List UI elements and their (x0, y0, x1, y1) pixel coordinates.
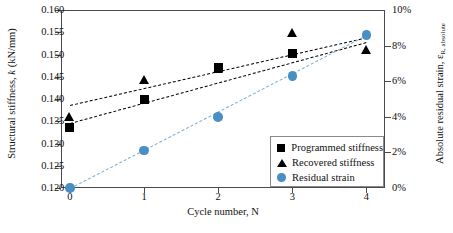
y-axis-left-tick-label: 0.140 (18, 94, 64, 104)
legend-label: Residual strain (288, 172, 355, 183)
data-point-triangle (139, 75, 149, 84)
y-axis-left-tick-label: 0.155 (18, 27, 64, 37)
legend-item-programmed-stiffness: Programmed stiffness (275, 140, 383, 155)
y-axis-right-tick (385, 152, 391, 153)
y-axis-left-tick-label: 0.145 (18, 72, 64, 82)
y-axis-left-tick-label: 0.160 (18, 5, 64, 15)
x-axis-tick-label: 4 (356, 191, 376, 203)
legend-item-residual-strain: Residual strain (275, 170, 383, 185)
y-axis-left-tick-label: 0.125 (18, 161, 64, 171)
y-axis-right-tick-label: 0% (392, 183, 422, 193)
data-point-circle (213, 112, 223, 122)
data-point-triangle (361, 45, 371, 54)
y-axis-right-tick-label: 8% (392, 41, 422, 51)
circle-marker-icon (275, 173, 288, 182)
x-axis-tick-label: 0 (60, 191, 80, 203)
data-point-square (288, 49, 297, 58)
y-axis-left-tick-label: 0.130 (18, 139, 64, 149)
y-axis-right-tick-label: 10% (392, 5, 422, 15)
y-axis-right-tick-label: 6% (392, 76, 422, 86)
data-point-circle (288, 71, 298, 81)
legend-item-recovered-stiffness: Recovered stiffness (275, 155, 383, 170)
data-point-triangle (213, 64, 223, 73)
y-axis-right-tick-label: 4% (392, 112, 422, 122)
data-point-triangle (287, 28, 297, 37)
y-axis-left-tick-label: 0.120 (18, 183, 64, 193)
x-axis-tick-label: 1 (134, 191, 154, 203)
legend-label: Programmed stiffness (287, 142, 383, 153)
data-point-square (65, 123, 74, 132)
x-axis-tick-label: 2 (208, 191, 228, 203)
y-axis-left-tick-label: 0.150 (18, 50, 64, 60)
data-point-circle (362, 30, 372, 40)
data-point-square (140, 95, 149, 104)
data-point-triangle (64, 112, 74, 121)
triangle-marker-icon (275, 159, 288, 167)
y-axis-right-title: Absolute residual strain, εR, absolute (434, 4, 445, 184)
legend-label: Recovered stiffness (288, 157, 374, 168)
y-axis-right-tick (385, 46, 391, 47)
data-point-circle (65, 183, 75, 193)
chart-figure: Structural stiffness, k (kN/mm) Absolute… (0, 0, 453, 233)
data-point-circle (139, 146, 149, 156)
y-axis-left-tick-label: 0.135 (18, 116, 64, 126)
x-axis-title: Cycle number, N (61, 206, 385, 217)
y-axis-right-tick (385, 117, 391, 118)
y-axis-right-tick-label: 2% (392, 147, 422, 157)
chart-legend: Programmed stiffness Recovered stiffness… (270, 136, 384, 187)
square-marker-icon (275, 144, 287, 152)
y-axis-right-tick (385, 81, 391, 82)
y-axis-left-title: Structural stiffness, k (kN/mm) (6, 4, 17, 184)
x-axis-tick-label: 3 (282, 191, 302, 203)
